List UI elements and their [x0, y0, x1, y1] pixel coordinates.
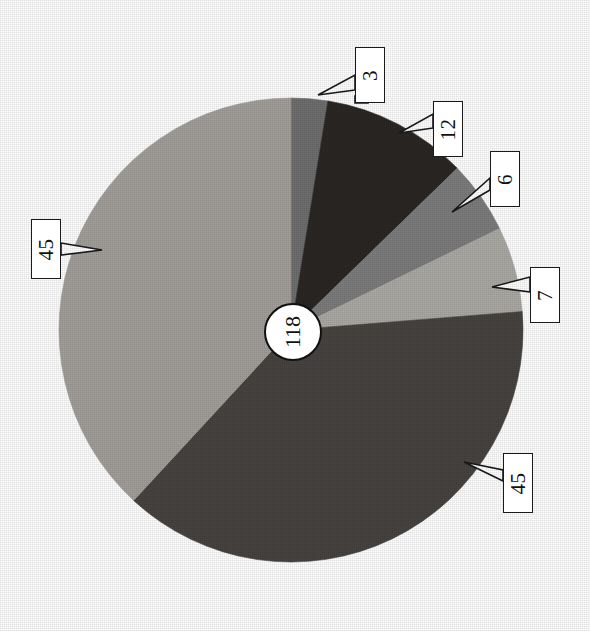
callout-6-value: 6	[495, 174, 516, 185]
callout-12: 12	[433, 101, 463, 157]
callout-3: 3	[355, 47, 385, 103]
pie-chart-figure: 312674545 118	[0, 0, 590, 631]
callout-12-value: 12	[438, 118, 459, 140]
callout-12-pointer-tail	[399, 114, 433, 133]
callout-45-lowerright-value: 45	[508, 472, 529, 494]
callout-3-pointer-tail	[318, 75, 355, 95]
callout-45-left-value: 45	[36, 238, 57, 260]
callout-3-value: 3	[360, 70, 381, 81]
callout-7: 7	[530, 267, 560, 323]
callout-45-lowerright: 45	[503, 453, 533, 513]
callout-7-value: 7	[535, 290, 556, 301]
callout-45-left: 45	[31, 219, 61, 279]
pie-center-total-badge: 118	[264, 303, 322, 361]
callout-6: 6	[490, 151, 520, 207]
pie-center-total-value: 118	[282, 316, 304, 348]
